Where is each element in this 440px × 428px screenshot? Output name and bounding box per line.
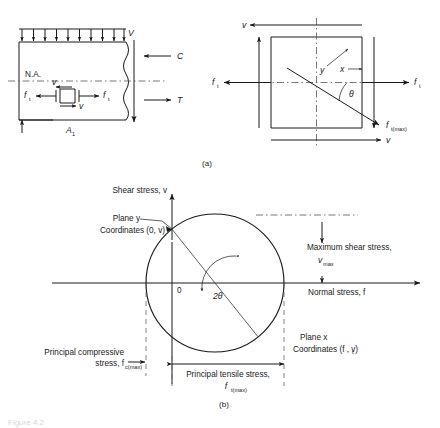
area-label-sub: 1 [72, 131, 75, 137]
element-right-tension-label: f [414, 77, 418, 87]
panel-a-beam-diagram: N.A. v v f t f t A 1 V [8, 28, 184, 137]
axis-y-label: y [319, 65, 325, 75]
neutral-axis-label: N.A. [25, 70, 41, 79]
area-label: A [65, 125, 72, 135]
plane-x-label-line1: Plane x [300, 333, 327, 342]
element-bottom-shear-label: v [386, 135, 391, 145]
panel-b-tag: (b) [219, 400, 229, 409]
fc-max-label-line2: stress, f [95, 359, 124, 368]
figure-caption-text: Figure 4.2 [0, 412, 440, 428]
axis-x-label: x [339, 64, 345, 74]
engineering-figure-svg: N.A. v v f t f t A 1 V [0, 0, 440, 428]
principal-plane-line [287, 68, 379, 125]
element-shear-bottom-label: v [79, 101, 84, 111]
element-tension-right-label: f [103, 90, 107, 100]
element-tension-right-sub: t [108, 96, 110, 102]
mohr-y-axis-label: Shear stress, v [112, 186, 168, 195]
plane-y-label-line2: Coordinates (0, v) [100, 226, 165, 235]
ft-max-label-line1: Principal tensile stress, [186, 370, 270, 379]
fc-max-label-line1: Principal compressive [44, 348, 124, 357]
element-tension-left-sub: t [29, 96, 31, 102]
mohr-x-axis-label: Normal stress, f [308, 288, 366, 297]
tension-label: T [177, 95, 183, 105]
principal-tension-label: f [386, 120, 390, 130]
element-tension-left-label: f [24, 90, 28, 100]
element-right-tension-sub: t [419, 83, 421, 89]
shear-force-label: V [128, 28, 135, 38]
figure-caption-cropped: Figure 4.2 [0, 412, 440, 428]
max-shear-label-sub: max [323, 261, 334, 267]
ft-max-label-line2: f [225, 381, 229, 391]
theta-angle-arc [339, 83, 347, 102]
element-left-tension-label: f [212, 77, 216, 87]
ft-max-label-sub: t(max) [231, 387, 247, 393]
plane-x-label-line2: Coordinates (f , v) [293, 345, 358, 354]
panel-b-mohrs-circle: Shear stress, v Normal stress, f 0 2θ Pl… [44, 186, 420, 393]
max-shear-label-line1: Maximum shear stress, [307, 243, 392, 252]
fc-max-label-sub: c(max) [125, 364, 142, 370]
plane-y-label-line1: Plane y [113, 214, 141, 223]
distributed-load-arrows [22, 29, 124, 41]
compression-label: C [177, 51, 184, 61]
mohr-origin-label: 0 [177, 286, 182, 295]
element-top-shear-label: v [242, 20, 247, 30]
panel-a-tag: (a) [202, 159, 212, 168]
theta-angle-label: θ [349, 89, 354, 99]
figure-root: N.A. v v f t f t A 1 V [0, 0, 440, 428]
stress-element-square [60, 89, 75, 103]
panel-a-stress-element-diagram: v v f t f t y x f t(max) [212, 18, 421, 148]
principal-tension-sub: t(max) [391, 126, 407, 132]
axis-y-arrow [327, 49, 348, 66]
element-left-tension-sub: t [217, 83, 219, 89]
element-shear-top-label: v [52, 77, 57, 87]
two-theta-label: 2θ [212, 291, 223, 301]
